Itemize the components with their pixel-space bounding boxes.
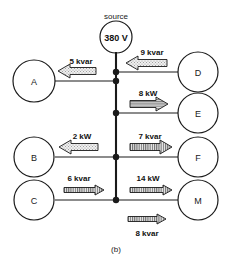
- node-a-group: A: [13, 60, 55, 102]
- node-d-group: D: [178, 52, 218, 92]
- node-a-label: A: [31, 77, 37, 87]
- flow-label-d: 9 kvar: [140, 48, 163, 57]
- node-f-group: F: [178, 137, 218, 177]
- node-e-group: E: [178, 93, 218, 133]
- flow-label-a: 5 kvar: [69, 57, 92, 66]
- figure-caption: (b): [111, 245, 121, 254]
- node-f-label: F: [195, 153, 201, 163]
- power-flow-diagram: source 380 V A B C D E F: [0, 0, 231, 262]
- source-voltage-label: 380 V: [104, 33, 128, 43]
- node-b-label: B: [31, 153, 37, 163]
- flow-label-c: 6 kvar: [67, 174, 90, 183]
- junction-dot-e: [113, 110, 119, 116]
- junction-dot-b-f: [113, 154, 119, 160]
- junction-dot-a: [113, 78, 119, 84]
- node-m-group: M: [178, 180, 218, 220]
- flow-label-m1: 14 kW: [136, 174, 160, 183]
- flow-label-m2: 8 kvar: [135, 229, 158, 238]
- flow-label-f: 7 kvar: [138, 132, 161, 141]
- node-e-label: E: [195, 109, 201, 119]
- node-c-label: C: [31, 196, 38, 206]
- node-c-group: C: [14, 180, 54, 220]
- junction-dot-d: [113, 69, 119, 75]
- source-caption-label: source: [104, 12, 129, 21]
- flow-label-b: 2 kW: [73, 132, 92, 141]
- node-d-label: D: [195, 68, 202, 78]
- node-b-group: B: [14, 137, 54, 177]
- node-m-label: M: [194, 196, 202, 206]
- source-group: source 380 V: [100, 12, 132, 54]
- junction-dot-c-m: [113, 197, 119, 203]
- flow-label-e: 8 kW: [139, 89, 158, 98]
